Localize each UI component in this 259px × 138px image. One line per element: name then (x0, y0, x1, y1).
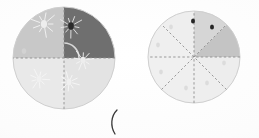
mark-dot-3 (156, 43, 160, 48)
sector-lower-right (64, 58, 115, 109)
splatter-ray (43, 79, 50, 80)
worksheet-page (0, 0, 259, 138)
mark-splatter-3 (81, 57, 86, 64)
figure-right-circle (140, 0, 259, 115)
mark-splatter-5 (67, 79, 72, 86)
mark-dot-2 (169, 25, 173, 30)
handwritten-open-parenthesis (104, 108, 126, 136)
mark-dot-5 (184, 86, 188, 91)
mark-dot-7 (222, 61, 226, 66)
figure-left-circle (0, 0, 130, 120)
left-circle-svg (0, 0, 130, 120)
mark-dot-2 (22, 48, 26, 54)
splatter-ray (39, 83, 40, 88)
right-circle-svg (140, 0, 259, 115)
mark-splatter-4 (37, 76, 42, 83)
mark-dot-1 (210, 24, 214, 29)
mark-splatter-1 (68, 22, 74, 29)
mark-dot-4 (159, 70, 163, 75)
parenthesis-stroke (112, 110, 117, 134)
sector-upper-left (13, 7, 64, 58)
mark-dot-0 (191, 18, 195, 23)
mark-splatter-0 (41, 20, 47, 28)
mark-dot-6 (205, 81, 209, 86)
sector-upper-right (64, 7, 115, 58)
parenthesis-glyph (104, 108, 126, 136)
sector-lower-left (13, 58, 64, 109)
